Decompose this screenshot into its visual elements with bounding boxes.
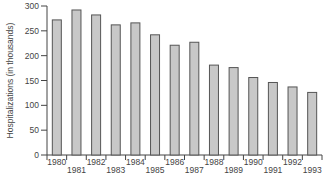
x-tick-label: 1982 <box>87 157 106 167</box>
y-tick-label: 250 <box>25 26 39 36</box>
y-axis: 050100150200250300 <box>25 1 47 160</box>
x-tick-label: 1987 <box>185 165 204 175</box>
bar-1980 <box>52 20 61 155</box>
bar-1982 <box>92 15 101 155</box>
bar-1984 <box>131 23 140 155</box>
y-tick-label: 50 <box>30 125 40 135</box>
y-axis-title: Hospitalizations (in thousands) <box>5 22 15 138</box>
x-tick-label: 1990 <box>244 157 263 167</box>
x-tick-label: 1984 <box>126 157 145 167</box>
y-tick-label: 0 <box>34 150 39 160</box>
bar-chart: Hospitalizations (in thousands) 05010015… <box>0 0 329 179</box>
bar-1988 <box>209 65 218 155</box>
bar-1981 <box>72 10 81 155</box>
x-tick-label: 1992 <box>283 157 302 167</box>
bar-1993 <box>308 92 317 155</box>
x-tick-label: 1989 <box>224 165 243 175</box>
x-tick-label: 1983 <box>106 165 125 175</box>
bar-1985 <box>151 35 160 155</box>
x-tick-label: 1980 <box>47 157 66 167</box>
y-tick-label: 100 <box>25 100 39 110</box>
y-tick-label: 150 <box>25 76 39 86</box>
x-tick-label: 1986 <box>165 157 184 167</box>
bars <box>52 10 316 155</box>
bar-1990 <box>249 78 258 155</box>
y-axis-label: Hospitalizations (in thousands) <box>5 22 15 138</box>
x-tick-label: 1985 <box>146 165 165 175</box>
bar-1991 <box>268 82 277 155</box>
x-axis: 1980198119821983198419851986198719881989… <box>47 155 322 175</box>
bar-1989 <box>229 68 238 155</box>
y-tick-label: 300 <box>25 1 39 11</box>
bar-1986 <box>170 45 179 155</box>
y-tick-label: 200 <box>25 51 39 61</box>
bar-1987 <box>190 42 199 155</box>
x-tick-label: 1993 <box>303 165 322 175</box>
x-tick-label: 1981 <box>67 165 86 175</box>
bar-1983 <box>111 25 120 155</box>
bar-1992 <box>288 87 297 155</box>
x-tick-label: 1988 <box>205 157 224 167</box>
x-tick-label: 1991 <box>263 165 282 175</box>
